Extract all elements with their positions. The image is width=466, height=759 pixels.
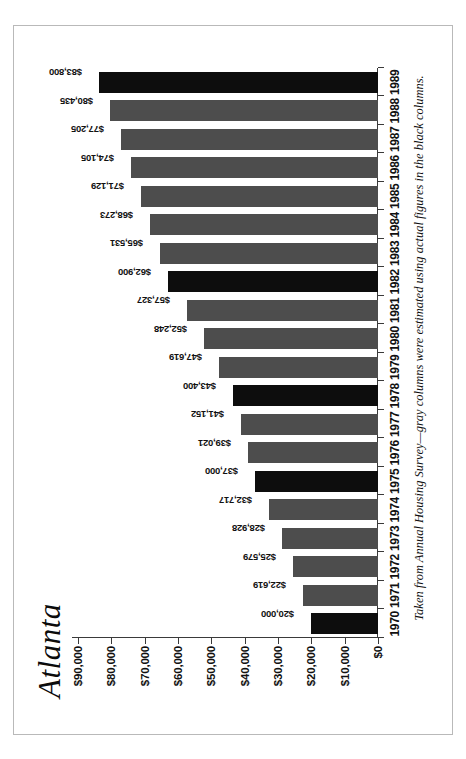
category-axis-label: 1984 bbox=[388, 212, 402, 238]
value-axis-tick-label: $80,000 bbox=[105, 646, 117, 686]
category-axis-label: 1978 bbox=[388, 383, 402, 409]
bar-1972[interactable] bbox=[293, 556, 378, 577]
bar-1970[interactable] bbox=[311, 613, 378, 634]
bar-slot: $25,579 bbox=[78, 556, 378, 577]
category-axis-tick bbox=[378, 181, 384, 182]
category-axis-tick bbox=[378, 608, 384, 609]
category-axis-tick bbox=[378, 67, 384, 68]
plot-area: $0$10,000$20,000$30,000$40,000$50,000$60… bbox=[78, 68, 378, 638]
bar-slot: $52,248 bbox=[78, 328, 378, 349]
category-axis-label: 1988 bbox=[388, 98, 402, 124]
category-axis-label: 1987 bbox=[388, 126, 402, 152]
value-axis-tick-label: $10,000 bbox=[339, 646, 351, 686]
chart-title: Atlanta bbox=[32, 603, 68, 698]
bar-slot: $32,717 bbox=[78, 499, 378, 520]
bar-1988[interactable] bbox=[110, 100, 378, 121]
bar-value-label: $37,000 bbox=[205, 466, 238, 477]
bar-value-label: $77,205 bbox=[71, 124, 104, 135]
bar-value-label: $62,900 bbox=[118, 266, 151, 277]
category-axis-label: 1989 bbox=[388, 69, 402, 95]
category-axis-tick bbox=[378, 551, 384, 552]
page-canvas: Atlanta $0$10,000$20,000$30,000$40,000$5… bbox=[0, 0, 466, 759]
bar-1977[interactable] bbox=[241, 413, 378, 434]
bar-slot: $43,400 bbox=[78, 385, 378, 406]
category-axis-label: 1977 bbox=[388, 411, 402, 437]
category-axis-label: 1974 bbox=[388, 497, 402, 523]
bar-value-label: $20,000 bbox=[261, 608, 294, 619]
category-axis-label: 1976 bbox=[388, 440, 402, 466]
bar-slot: $22,619 bbox=[78, 584, 378, 605]
category-axis-tick bbox=[378, 238, 384, 239]
bar-1973[interactable] bbox=[282, 527, 378, 548]
category-axis-tick bbox=[378, 523, 384, 524]
bar-1980[interactable] bbox=[204, 328, 378, 349]
category-axis-tick bbox=[378, 409, 384, 410]
bar-1982[interactable] bbox=[168, 271, 378, 292]
bar-value-label: $22,619 bbox=[253, 580, 286, 591]
bar-1978[interactable] bbox=[233, 385, 378, 406]
category-axis-label: 1981 bbox=[388, 297, 402, 323]
bar-1979[interactable] bbox=[219, 356, 378, 377]
category-axis-label: 1982 bbox=[388, 269, 402, 295]
bar-1971[interactable] bbox=[303, 584, 378, 605]
value-axis-tick-label: $60,000 bbox=[172, 646, 184, 686]
bar-slot: $83,800 bbox=[78, 71, 378, 92]
bar-value-label: $83,800 bbox=[49, 67, 82, 78]
rotated-figure: Atlanta $0$10,000$20,000$30,000$40,000$5… bbox=[13, 25, 453, 735]
bar-1989[interactable] bbox=[99, 71, 378, 92]
bar-value-label: $47,619 bbox=[169, 352, 202, 363]
value-axis-tick-label: $40,000 bbox=[239, 646, 251, 686]
bar-slot: $37,000 bbox=[78, 470, 378, 491]
bar-slot: $57,327 bbox=[78, 299, 378, 320]
bar-value-label: $41,152 bbox=[191, 409, 224, 420]
bar-1984[interactable] bbox=[150, 214, 378, 235]
bar-value-label: $32,717 bbox=[219, 494, 252, 505]
bar-1974[interactable] bbox=[269, 499, 378, 520]
category-axis-tick bbox=[378, 295, 384, 296]
bar-slot: $77,205 bbox=[78, 128, 378, 149]
category-axis-label: 1975 bbox=[388, 468, 402, 494]
category-axis-label: 1980 bbox=[388, 326, 402, 352]
category-axis-tick bbox=[378, 494, 384, 495]
category-axis-label: 1972 bbox=[388, 554, 402, 580]
bar-slot: $47,619 bbox=[78, 356, 378, 377]
value-axis-tick-label: $50,000 bbox=[205, 646, 217, 686]
bar-slot: $74,105 bbox=[78, 157, 378, 178]
bar-value-label: $39,021 bbox=[198, 437, 231, 448]
bar-value-label: $71,129 bbox=[91, 181, 124, 192]
category-axis-label: 1973 bbox=[388, 525, 402, 551]
bar-value-label: $43,400 bbox=[183, 380, 216, 391]
bar-1981[interactable] bbox=[187, 299, 378, 320]
bar-1975[interactable] bbox=[255, 470, 378, 491]
category-axis-tick bbox=[378, 437, 384, 438]
bar-1976[interactable] bbox=[248, 442, 378, 463]
bar-1987[interactable] bbox=[121, 128, 378, 149]
bar-value-label: $80,435 bbox=[60, 95, 93, 106]
bar-slot: $39,021 bbox=[78, 442, 378, 463]
category-axis-label: 1971 bbox=[388, 582, 402, 608]
category-axis-label: 1979 bbox=[388, 354, 402, 380]
bar-value-label: $74,105 bbox=[81, 152, 114, 163]
figure-frame: Atlanta $0$10,000$20,000$30,000$40,000$5… bbox=[13, 25, 453, 735]
bar-1983[interactable] bbox=[160, 242, 378, 263]
bar-value-label: $65,531 bbox=[110, 238, 143, 249]
value-axis-tick-label: $20,000 bbox=[305, 646, 317, 686]
category-axis-label: 1986 bbox=[388, 155, 402, 181]
bar-value-label: $25,579 bbox=[243, 551, 276, 562]
bar-slot: $65,531 bbox=[78, 242, 378, 263]
bar-slot: $41,152 bbox=[78, 413, 378, 434]
bar-1985[interactable] bbox=[141, 185, 378, 206]
value-axis-tick-label: $70,000 bbox=[139, 646, 151, 686]
category-axis-tick bbox=[378, 266, 384, 267]
category-axis-tick bbox=[378, 209, 384, 210]
bar-slot: $20,000 bbox=[78, 613, 378, 634]
bar-value-label: $68,273 bbox=[100, 209, 133, 220]
bar-slot: $68,273 bbox=[78, 214, 378, 235]
bar-slot: $28,928 bbox=[78, 527, 378, 548]
bar-value-label: $52,248 bbox=[154, 323, 187, 334]
value-axis-tick-label: $90,000 bbox=[72, 646, 84, 686]
bar-1986[interactable] bbox=[131, 157, 378, 178]
category-axis-tick bbox=[378, 380, 384, 381]
bar-slot: $80,435 bbox=[78, 100, 378, 121]
category-axis-label: 1970 bbox=[388, 611, 402, 637]
